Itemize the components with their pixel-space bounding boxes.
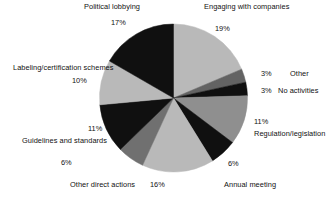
- slice-label-labeling-certification-schemes: Labeling/certification schemes: [13, 63, 114, 72]
- slice-value-political-lobbying: 17%: [111, 18, 126, 27]
- slice-value-sixteen-percent: 16%: [150, 180, 165, 189]
- slice-value-other: 3%: [261, 69, 272, 78]
- slice-label-political-lobbying: Political lobbying: [84, 2, 140, 11]
- slice-value-guidelines-and-standards: 11%: [88, 124, 102, 133]
- slice-value-no-activities: 3%: [261, 86, 272, 95]
- pie-chart-svg: [0, 0, 331, 206]
- slice-label-no-activities: No activities: [278, 86, 319, 95]
- slice-label-other-direct-actions: Other direct actions: [70, 180, 135, 189]
- slice-label-guidelines-and-standards: Guidelines and standards: [22, 136, 107, 145]
- slice-label-annual-meeting: Annual meeting: [224, 180, 276, 189]
- slice-value-regulation-legislation: 11%: [254, 117, 268, 126]
- slice-value-engaging-with-companies: 19%: [215, 24, 230, 33]
- slice-label-other: Other: [290, 69, 309, 78]
- slice-value-annual-meeting: 6%: [228, 159, 239, 168]
- slice-label-engaging-with-companies: Engaging with companies: [204, 2, 289, 11]
- pie-chart: Political lobbying 17% Engaging with com…: [0, 0, 331, 206]
- slice-value-labeling-certification-schemes: 10%: [72, 76, 87, 85]
- slice-label-regulation-legislation: Regulation/legislation: [254, 129, 325, 138]
- pie-slice-group: [100, 24, 248, 172]
- slice-value-other-direct-actions: 6%: [61, 158, 72, 167]
